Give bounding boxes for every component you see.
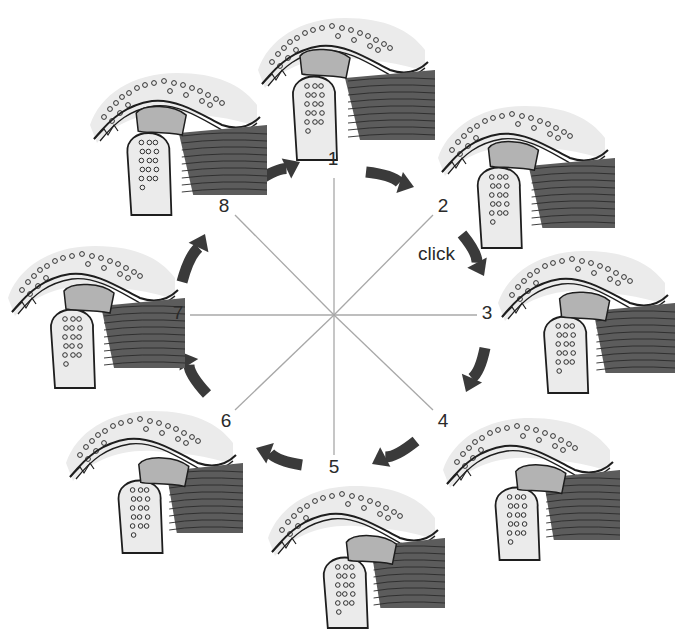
joint-illustration-phase-5 [260,468,450,628]
articular-disc-icon [139,458,189,487]
arrow-4-to-5 [372,441,416,467]
spoke-8 [235,215,334,315]
condyle-icon [324,558,368,629]
condyle-icon [119,481,163,554]
spoke-6 [235,315,334,410]
articular-disc-icon [64,284,114,313]
joint-illustration-phase-4 [435,400,625,560]
articular-disc-icon [136,107,186,136]
joint-illustration-phase-3 [490,233,679,393]
spoke-4 [334,315,433,410]
articular-disc-icon [300,49,350,78]
muscle-icon [529,158,615,228]
joint-illustration-phase-8 [82,55,272,215]
phase-label-5: 5 [329,457,340,476]
phase-label-8: 8 [219,196,230,215]
articular-disc-icon [488,142,538,171]
condyle-icon [127,133,171,215]
condyle-icon [544,317,588,394]
arrow-1-to-2 [366,172,414,193]
articular-disc-icon [516,465,566,494]
joint-illustration-phase-2 [430,88,620,248]
arrow-5-to-6 [256,443,302,465]
muscle-icon [345,70,435,140]
arrow-3-to-4 [462,348,485,392]
joint-illustration-phase-7 [0,228,190,388]
phase-label-2: 2 [438,196,449,215]
muscle-icon [179,125,267,195]
joint-illustration-phase-6 [58,393,248,553]
phase-label-6: 6 [221,411,232,430]
articular-disc-icon [346,536,396,565]
phase-label-7: 7 [173,303,184,322]
phase-label-4: 4 [438,411,449,430]
phase-label-3: 3 [482,303,493,322]
click-annotation: click [418,244,455,263]
joint-illustration-phase-1 [250,0,440,160]
articular-disc-icon [560,292,610,321]
phase-label-1: 1 [328,149,339,168]
spoke-2 [334,215,433,315]
condyle-icon [496,488,540,561]
condyle-icon [51,310,95,389]
